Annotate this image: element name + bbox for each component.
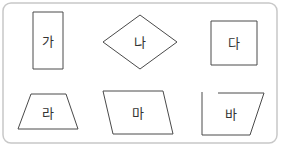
label-ba: 바	[225, 107, 237, 122]
label-da: 다	[228, 36, 240, 51]
shapes-figure: 가 나 다 라 마 바	[0, 0, 281, 153]
label-ma: 마	[132, 106, 144, 121]
label-ga: 가	[42, 34, 54, 49]
shapes-diagram: 가 나 다 라 마 바	[0, 0, 281, 153]
label-na: 나	[134, 35, 146, 50]
label-ra: 라	[42, 106, 54, 121]
